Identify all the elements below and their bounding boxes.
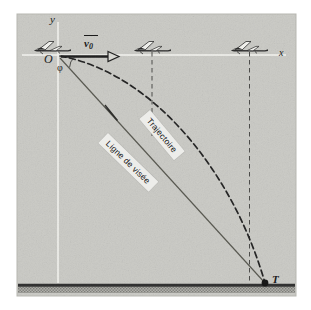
velocity-symbol: v xyxy=(84,37,89,49)
figure-container: y x O φ T v0 Trajectoire Ligne de visée xyxy=(0,0,311,310)
diagram-canvas xyxy=(0,0,311,310)
angle-phi-label: φ xyxy=(57,62,63,73)
origin-label: O xyxy=(44,52,53,67)
velocity-vector-label: v0 xyxy=(84,37,93,51)
y-axis-label: y xyxy=(50,13,55,25)
velocity-subscript: 0 xyxy=(89,42,93,51)
panel-grain-overlay xyxy=(17,14,296,296)
target-label: T xyxy=(272,273,279,285)
x-axis-label: x xyxy=(279,47,283,58)
